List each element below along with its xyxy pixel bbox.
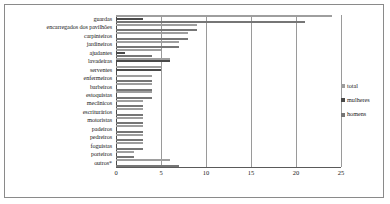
bar-rows [116,15,341,167]
bar-group [116,83,341,91]
legend-label-mulheres: mulheres [347,97,370,103]
bar-group [116,142,341,150]
bar-group [116,159,341,167]
bar-chart: guardasencarregados dos pavilhõescarpint… [5,5,385,197]
legend-swatch-mulheres-icon [341,98,345,102]
bar-group [116,116,341,124]
category-label: foguistas [91,143,112,149]
bar-total [116,32,188,34]
x-tick-0: 0 [114,169,117,176]
x-tick-5: 5 [159,169,162,176]
x-axis-line [116,167,341,168]
bar-group [116,74,341,82]
x-tick-25: 25 [338,169,345,176]
category-axis-labels: guardasencarregados dos pavilhõescarpint… [5,15,114,167]
category-label: barbeiros [90,84,112,90]
bar-total [116,15,332,17]
category-label: mecânicos [87,100,112,106]
bar-total [116,49,161,51]
bar-total [116,75,152,77]
bar-group [116,125,341,133]
chart-legend: total mulheres homens [341,83,385,126]
legend-item-homens: homens [341,111,385,117]
bar-group [116,150,341,158]
legend-swatch-total-icon [341,84,345,88]
bar-mulheres [116,52,125,54]
legend-item-mulheres: mulheres [341,97,385,103]
bar-total [116,159,170,161]
bar-total [116,58,170,60]
legend-label-homens: homens [347,111,366,117]
bar-total [116,108,143,110]
bar-group [116,91,341,99]
category-label: carpinteiros [84,33,112,39]
bar-total [116,91,152,93]
bar-homens [116,165,179,167]
bar-group [116,23,341,31]
x-tick-10: 10 [203,169,210,176]
bar-group [116,32,341,40]
bar-total [116,151,134,153]
legend-item-total: total [341,83,385,89]
bar-total [116,134,143,136]
category-label: estoquistas [86,92,112,98]
chart-frame: guardasencarregados dos pavilhõescarpint… [4,4,384,198]
x-tick-20: 20 [293,169,300,176]
bar-total [116,117,143,119]
legend-label-total: total [347,83,358,89]
category-label: jardineiros [87,41,112,47]
legend-swatch-homens-icon [341,113,345,117]
bar-total [116,24,197,26]
bar-total [116,66,161,68]
category-label: padeiros [92,126,112,132]
bar-group [116,108,341,116]
category-label: encarregados dos pavilhões [47,24,112,30]
category-label: pedreiros [90,134,112,140]
x-axis-tick-labels: 0510152025 [116,169,341,181]
bar-group [116,49,341,57]
bar-total [116,100,143,102]
bar-group [116,40,341,48]
bar-group [116,99,341,107]
bar-total [116,41,179,43]
bar-total [116,125,143,127]
category-label: porteiros [91,151,112,157]
bar-group [116,15,341,23]
category-label: serventes [90,67,112,73]
category-label: guardas [93,16,112,22]
category-label: lavadeiras [88,58,112,64]
plot-area [116,15,341,167]
bar-group [116,66,341,74]
bar-mulheres [116,60,170,62]
category-label: enfermeiros [84,75,112,81]
category-label: escriturários [83,109,112,115]
bar-mulheres [116,18,143,20]
bar-total [116,83,152,85]
category-label: ajudantes [90,50,112,56]
x-tick-15: 15 [248,169,255,176]
category-label: motoristas [87,117,112,123]
bar-total [116,142,143,144]
bar-mulheres [116,69,161,71]
category-label: outros* [94,160,112,166]
bar-group [116,133,341,141]
bar-group [116,57,341,65]
